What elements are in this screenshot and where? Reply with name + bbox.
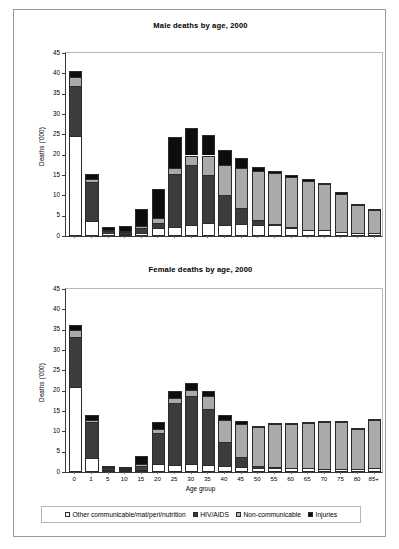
bar-1	[85, 415, 98, 472]
bar-segment-hiv-aids	[85, 182, 98, 221]
bar-70	[318, 421, 331, 472]
bar-segment-injuries	[218, 415, 231, 420]
x-axis-tick-mark	[307, 472, 308, 474]
y-axis-tick-mark	[62, 330, 65, 331]
bar-segment-non-communicable	[69, 330, 82, 337]
bar-segment-injuries	[168, 137, 181, 168]
bar-45	[235, 158, 248, 236]
x-axis-tick-mark	[91, 472, 92, 474]
y-axis-tick-label: 0	[38, 469, 60, 475]
y-axis-tick-label: 10	[38, 428, 60, 434]
bar-20	[152, 422, 165, 472]
bar-30	[185, 383, 198, 472]
bar-segment-non-communicable	[135, 464, 148, 466]
bar-segment-injuries	[202, 135, 215, 155]
bar-segment-non-communicable	[152, 429, 165, 433]
bar-segment-non-communicable	[318, 422, 331, 469]
bar-segment-other-communicable	[152, 228, 165, 236]
x-axis-tick-mark	[108, 236, 109, 238]
bar-75	[335, 192, 348, 236]
bar-segment-injuries	[119, 226, 132, 230]
bar-segment-non-communicable	[135, 226, 148, 228]
bar-40	[218, 150, 231, 236]
x-axis-tick-mark	[207, 236, 208, 238]
bar-35	[202, 135, 215, 236]
bar-70	[318, 183, 331, 236]
y-axis-tick-label: 20	[38, 387, 60, 393]
bar-segment-non-communicable	[351, 429, 364, 470]
x-axis-tick-mark	[307, 236, 308, 238]
y-axis-tick-mark	[62, 94, 65, 95]
bar-segment-hiv-aids	[185, 396, 198, 464]
bar-segment-injuries	[252, 167, 265, 171]
x-axis-tick-mark	[74, 236, 75, 238]
bar-segment-hiv-aids	[119, 469, 132, 470]
bar-segment-hiv-aids	[119, 232, 132, 234]
x-axis-tick-mark	[191, 236, 192, 238]
bar-segment-other-communicable	[69, 387, 82, 472]
bar-segment-injuries	[302, 179, 315, 181]
bar-segment-other-communicable	[69, 136, 82, 236]
bar-segment-non-communicable	[168, 398, 181, 402]
bar-20	[152, 189, 165, 236]
bar-segment-hiv-aids	[185, 165, 198, 225]
bar-segment-hiv-aids	[102, 231, 115, 233]
bar-segment-non-communicable	[252, 171, 265, 220]
bar-segment-injuries	[102, 227, 115, 230]
bar-segment-non-communicable	[202, 396, 215, 409]
bar-segment-other-communicable	[335, 232, 348, 236]
y-axis-tick-mark	[62, 350, 65, 351]
y-axis-tick-mark	[62, 236, 65, 237]
x-axis-tick-mark	[340, 236, 341, 238]
y-axis-tick-label: 30	[38, 347, 60, 353]
bar-25	[168, 137, 181, 236]
x-axis-tick-mark	[91, 236, 92, 238]
bar-segment-hiv-aids	[202, 409, 215, 466]
legend-item-label: Injuries	[316, 511, 338, 518]
y-axis-tick-label: 15	[38, 172, 60, 178]
x-axis-label-female: Age group	[14, 485, 387, 492]
x-axis-tick-mark	[340, 472, 341, 474]
y-axis-tick-label: 45	[38, 50, 60, 56]
bar-segment-injuries	[285, 423, 298, 424]
bar-segment-hiv-aids	[252, 220, 265, 225]
bar-segment-injuries	[85, 415, 98, 420]
bar-segment-injuries	[335, 421, 348, 422]
x-axis-tick-mark	[357, 472, 358, 474]
y-axis-tick-mark	[62, 309, 65, 310]
y-axis-tick-label: 0	[38, 233, 60, 239]
bar-segment-other-communicable	[152, 464, 165, 472]
x-axis-tick-mark	[291, 472, 292, 474]
chart-title-male: Male deaths by age, 2000	[14, 21, 387, 30]
x-axis-tick-mark	[108, 472, 109, 474]
bar-segment-injuries	[285, 175, 298, 177]
bar-segment-hiv-aids	[168, 403, 181, 465]
y-axis-tick-mark	[62, 289, 65, 290]
bar-40	[218, 415, 231, 472]
x-axis-tick-mark	[274, 472, 275, 474]
bar-segment-hiv-aids	[235, 208, 248, 223]
y-axis-tick-label: 35	[38, 326, 60, 332]
y-axis-tick-label: 45	[38, 286, 60, 292]
bar-segment-non-communicable	[285, 177, 298, 227]
bar-segment-non-communicable	[185, 156, 198, 165]
bar-segment-injuries	[368, 419, 381, 420]
bar-segment-injuries	[268, 171, 281, 173]
x-axis-tick-mark	[174, 236, 175, 238]
legend-item-label: HIV/AIDS	[200, 511, 229, 518]
bar-segment-injuries	[218, 150, 231, 165]
bar-segment-non-communicable	[285, 424, 298, 468]
bar-80	[351, 204, 364, 236]
bar-segment-hiv-aids	[218, 442, 231, 466]
bar-segment-hiv-aids	[102, 468, 115, 470]
y-axis-tick-label: 15	[38, 408, 60, 414]
x-axis-tick-mark	[141, 236, 142, 238]
x-axis-tick-mark	[257, 236, 258, 238]
bar-segment-non-communicable	[185, 390, 198, 395]
figure-canvas: Male deaths by age, 2000 Deaths ('000) 0…	[0, 0, 399, 549]
y-axis-tick-label: 35	[38, 90, 60, 96]
bar-segment-injuries	[351, 204, 364, 205]
bar-segment-other-communicable	[185, 225, 198, 236]
bar-segment-injuries	[351, 428, 364, 429]
y-axis-tick-mark	[62, 452, 65, 453]
